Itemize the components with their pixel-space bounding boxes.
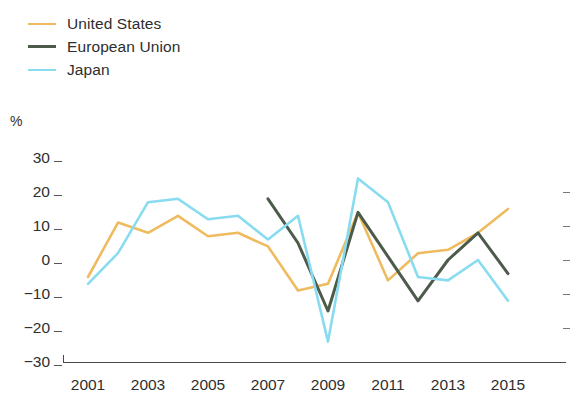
right-edge-tick xyxy=(563,192,570,193)
series-lines xyxy=(0,0,579,405)
series-line-japan xyxy=(88,178,508,341)
right-edge-tick xyxy=(563,226,570,227)
right-edge-tick xyxy=(563,328,570,329)
series-line-european-union xyxy=(268,199,508,311)
chart-container: United States European Union Japan % 302… xyxy=(0,0,579,405)
right-edge-tick xyxy=(563,294,570,295)
plot-area: % 3020100−10−20−30 200120032005200720092… xyxy=(0,0,579,405)
right-edge-tick xyxy=(563,260,570,261)
